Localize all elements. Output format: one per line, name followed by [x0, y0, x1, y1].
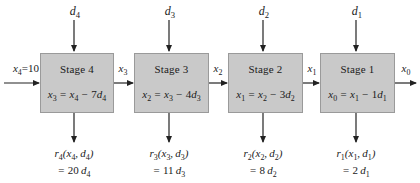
return-function-stage2: r2(x2, d2) = 8 d2	[223, 147, 303, 181]
stage-equation-stage3: x2 = x3 − 4d3	[142, 88, 201, 103]
decision-label-stage1: d1	[346, 4, 368, 20]
decision-label-stage4: d4	[64, 4, 86, 20]
return-function-expr-stage4: r4(x4, d4)	[34, 147, 114, 164]
return-function-stage1: r1(x1, d1) = 2 d1	[316, 147, 396, 181]
stage-equation-stage1: x0 = x1 − 1d1	[328, 88, 387, 103]
stage-equation-stage2: x1 = x2 − 3d2	[236, 88, 295, 103]
return-function-stage4: r4(x4, d4) = 20 d4	[34, 147, 114, 181]
state-label-x3: x3	[112, 62, 134, 77]
stage-box-stage1[interactable]: Stage 1 x0 = x1 − 1d1	[320, 53, 395, 113]
return-function-value-stage4: = 20 d4	[34, 164, 114, 181]
return-function-value-stage2: = 8 d2	[223, 164, 303, 181]
return-function-value-stage1: = 2 d1	[316, 164, 396, 181]
return-function-expr-stage1: r1(x1, d1)	[316, 147, 396, 164]
stage-title-stage2: Stage 2	[248, 63, 282, 75]
output-state-label: x0	[395, 62, 417, 77]
decision-label-stage2: d2	[253, 4, 275, 20]
stage-title-stage1: Stage 1	[340, 63, 374, 75]
state-label-x2: x2	[207, 62, 229, 77]
return-function-value-stage3: = 11 d3	[129, 164, 209, 181]
multistage-process-diagram: d4 d3 d2 d1 x4=10 Stage 4 x3 = x4 − 7d4 …	[0, 0, 420, 183]
stage-box-stage2[interactable]: Stage 2 x1 = x2 − 3d2	[228, 53, 303, 113]
return-function-stage3: r3(x3, d3) = 11 d3	[129, 147, 209, 181]
stage-box-stage4[interactable]: Stage 4 x3 = x4 − 7d4	[40, 53, 114, 113]
stage-title-stage4: Stage 4	[60, 63, 94, 75]
stage-box-stage3[interactable]: Stage 3 x2 = x3 − 4d3	[134, 53, 209, 113]
stage-equation-stage4: x3 = x4 − 7d4	[48, 88, 107, 103]
decision-label-stage3: d3	[159, 4, 181, 20]
return-function-expr-stage3: r3(x3, d3)	[129, 147, 209, 164]
return-function-expr-stage2: r2(x2, d2)	[223, 147, 303, 164]
stage-title-stage3: Stage 3	[154, 63, 188, 75]
state-label-x1: x1	[301, 62, 323, 77]
